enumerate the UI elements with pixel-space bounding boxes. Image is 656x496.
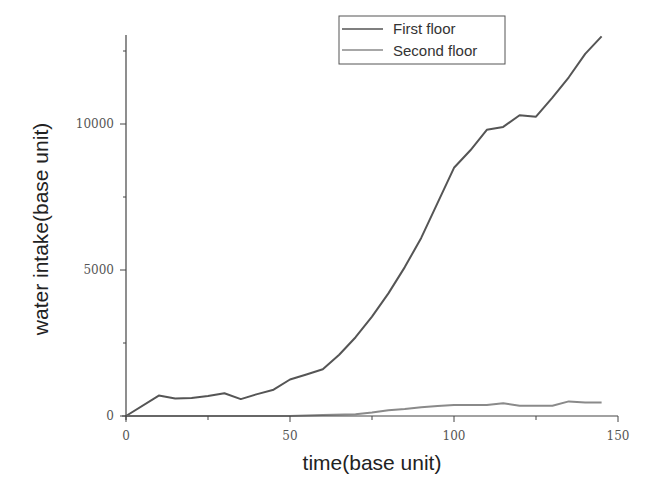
series-first-floor	[126, 36, 602, 416]
legend: First floor Second floor	[339, 16, 505, 64]
x-tick-label: 150	[607, 429, 630, 443]
line-chart: 0501001500500010000 First floor Second f…	[0, 0, 656, 496]
x-tick-label: 100	[443, 429, 466, 443]
y-axis-title: water intake(base unit)	[29, 123, 52, 336]
y-tick-label: 10000	[76, 117, 114, 131]
x-axis-title: time(base unit)	[303, 451, 442, 474]
x-tick-label: 50	[282, 429, 297, 443]
series-second-floor	[126, 401, 602, 416]
legend-label-second-floor: Second floor	[393, 42, 477, 59]
y-tick-label: 5000	[83, 263, 114, 277]
legend-label-first-floor: First floor	[393, 20, 456, 37]
plot-lines	[126, 36, 602, 416]
x-tick-label: 0	[122, 429, 130, 443]
axes: 0501001500500010000	[76, 35, 630, 443]
y-tick-label: 0	[106, 409, 114, 423]
